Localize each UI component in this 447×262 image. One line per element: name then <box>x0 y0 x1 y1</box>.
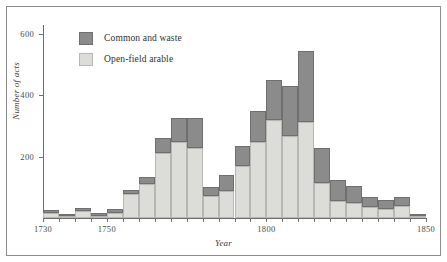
bar-segment-common-and-waste <box>362 197 378 207</box>
x-tick-1755 <box>123 218 124 222</box>
bar-segment-open-field-arable <box>187 148 203 218</box>
bar-1840 <box>394 197 410 218</box>
bar-segment-open-field-arable <box>394 206 410 218</box>
x-tick-1800 <box>266 218 267 222</box>
x-tick-1760 <box>139 218 140 222</box>
y-tick-200: 200 <box>39 157 44 158</box>
legend-item-common-and-waste: Common and waste <box>79 30 182 46</box>
bar-1740 <box>75 208 91 218</box>
bar-segment-common-and-waste <box>378 200 394 209</box>
bar-1770 <box>171 118 187 218</box>
bar-1760 <box>139 177 155 218</box>
bar-segment-open-field-arable <box>107 213 123 219</box>
y-tick-label-600: 600 <box>20 29 34 39</box>
bar-segment-open-field-arable <box>266 120 282 218</box>
legend-label-common-and-waste: Common and waste <box>104 33 182 43</box>
bar-segment-open-field-arable <box>378 209 394 218</box>
bar-segment-common-and-waste <box>235 146 251 166</box>
x-tick-1775 <box>187 218 188 222</box>
bar-segment-open-field-arable <box>203 196 219 218</box>
bar-1750 <box>107 209 123 218</box>
x-tick-1820 <box>330 218 331 222</box>
bar-1780 <box>203 187 219 218</box>
bar-segment-open-field-arable <box>282 136 298 218</box>
bar-1765 <box>155 138 171 218</box>
bar-segment-open-field-arable <box>43 213 59 219</box>
bar-segment-common-and-waste <box>330 180 346 201</box>
bar-1810 <box>298 51 314 218</box>
bar-segment-open-field-arable <box>171 142 187 218</box>
bar-segment-common-and-waste <box>187 118 203 148</box>
x-axis-title: Year <box>0 238 447 248</box>
bar-segment-common-and-waste <box>171 118 187 142</box>
bar-segment-common-and-waste <box>346 186 362 204</box>
bar-segment-open-field-arable <box>298 122 314 218</box>
bar-segment-common-and-waste <box>107 209 123 212</box>
open-field-swatch <box>79 53 93 66</box>
bar-segment-common-and-waste <box>91 213 107 215</box>
x-tick-label-1850: 1850 <box>417 224 435 234</box>
x-tick-1850 <box>426 218 427 222</box>
bar-segment-open-field-arable <box>314 183 330 218</box>
x-tick-1745 <box>91 218 92 222</box>
bar-segment-common-and-waste <box>75 208 91 211</box>
x-tick-1815 <box>314 218 315 222</box>
bar-segment-open-field-arable <box>235 166 251 218</box>
bar-segment-common-and-waste <box>123 190 139 195</box>
bar-1755 <box>123 190 139 218</box>
bar-segment-open-field-arable <box>219 191 235 218</box>
bar-segment-common-and-waste <box>282 86 298 136</box>
x-tick-1805 <box>282 218 283 222</box>
x-tick-1770 <box>171 218 172 222</box>
x-tick-1730 <box>43 218 44 222</box>
bar-segment-open-field-arable <box>75 211 91 218</box>
bar-segment-open-field-arable <box>59 216 75 218</box>
common-waste-swatch <box>79 32 93 45</box>
x-tick-1750 <box>107 218 108 222</box>
bar-segment-open-field-arable <box>91 216 107 218</box>
x-tick-1785 <box>219 218 220 222</box>
bar-1835 <box>378 200 394 218</box>
bar-segment-common-and-waste <box>394 197 410 207</box>
bar-1845 <box>410 216 426 218</box>
bar-segment-open-field-arable <box>155 153 171 218</box>
x-tick-1790 <box>235 218 236 222</box>
bar-segment-common-and-waste <box>219 175 235 191</box>
bar-segment-common-and-waste <box>155 138 171 153</box>
x-tick-1845 <box>410 218 411 222</box>
bar-segment-common-and-waste <box>314 148 330 182</box>
x-tick-1835 <box>378 218 379 222</box>
y-tick-600: 600 <box>39 34 44 35</box>
figure: Number of acts Year 600400200 1730175018… <box>0 0 447 262</box>
x-tick-1740 <box>75 218 76 222</box>
bar-1820 <box>330 180 346 218</box>
y-tick-label-200: 200 <box>20 152 34 162</box>
y-tick-label-400: 400 <box>20 90 34 100</box>
bar-segment-open-field-arable <box>123 194 139 218</box>
x-tick-1735 <box>59 218 60 222</box>
bar-segment-common-and-waste <box>203 187 219 196</box>
legend-label-open-field-arable: Open-field arable <box>104 54 173 64</box>
bar-segment-common-and-waste <box>266 80 282 120</box>
bar-1830 <box>362 197 378 218</box>
x-tick-1810 <box>298 218 299 222</box>
bar-segment-common-and-waste <box>298 51 314 122</box>
x-tick-1795 <box>250 218 251 222</box>
bar-1735 <box>59 214 75 218</box>
x-tick-label-1800: 1800 <box>257 224 275 234</box>
y-tick-400: 400 <box>39 95 44 96</box>
bar-1730 <box>43 210 59 218</box>
bar-segment-open-field-arable <box>362 207 378 218</box>
x-tick-1780 <box>203 218 204 222</box>
bar-segment-common-and-waste <box>139 177 155 184</box>
bar-segment-common-and-waste <box>410 214 426 216</box>
bar-segment-common-and-waste <box>250 111 266 142</box>
x-tick-1830 <box>362 218 363 222</box>
bar-segment-open-field-arable <box>250 142 266 218</box>
bar-segment-open-field-arable <box>330 201 346 218</box>
bar-1785 <box>219 175 235 218</box>
bar-1825 <box>346 186 362 218</box>
y-axis-line <box>43 25 44 218</box>
bar-1815 <box>314 148 330 218</box>
bar-1795 <box>250 111 266 218</box>
